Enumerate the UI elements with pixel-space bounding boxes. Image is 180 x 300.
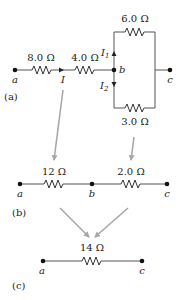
resistor-4ohm bbox=[75, 66, 94, 74]
node-a bbox=[41, 259, 46, 264]
label-4ohm: 4.0 Ω bbox=[71, 52, 98, 63]
label-12ohm: 12 Ω bbox=[42, 166, 66, 177]
label-node-b: b bbox=[89, 188, 95, 199]
label-node-b: b bbox=[119, 64, 125, 75]
label-node-a: a bbox=[17, 188, 23, 199]
label-current-I1: I1 bbox=[100, 47, 109, 60]
label-node-c: c bbox=[167, 74, 173, 85]
label-node-c: c bbox=[164, 188, 170, 199]
resistor-12ohm bbox=[44, 180, 63, 188]
resistor-8ohm bbox=[32, 66, 51, 74]
current-arrow-I2 bbox=[112, 82, 117, 87]
node-c bbox=[165, 182, 170, 187]
node-a bbox=[18, 182, 23, 187]
label-3ohm: 3.0 Ω bbox=[121, 116, 148, 127]
panel-c: 14 Ω a c (c) bbox=[12, 242, 145, 291]
resistor-14ohm bbox=[82, 257, 101, 265]
resistor-6ohm bbox=[125, 28, 144, 36]
node-c bbox=[140, 259, 145, 264]
resistor-3ohm bbox=[125, 104, 144, 112]
node-b bbox=[90, 182, 95, 187]
circuit-diagram: 8.0 Ω 4.0 Ω 6.0 Ω 3.0 Ω a b c I I1 I2 (a… bbox=[0, 0, 180, 300]
current-arrow-I bbox=[59, 68, 64, 73]
label-2ohm: 2.0 Ω bbox=[117, 166, 144, 177]
label-8ohm: 8.0 Ω bbox=[27, 52, 54, 63]
panel-label-a: (a) bbox=[4, 91, 18, 102]
node-a bbox=[13, 68, 18, 73]
panel-label-b: (b) bbox=[12, 207, 26, 218]
reduction-arrow-series bbox=[54, 90, 63, 160]
node-c bbox=[168, 68, 173, 73]
label-6ohm: 6.0 Ω bbox=[121, 13, 148, 24]
panel-label-c: (c) bbox=[12, 280, 26, 291]
panel-a: 8.0 Ω 4.0 Ω 6.0 Ω 3.0 Ω a b c I I1 I2 (a… bbox=[4, 13, 173, 127]
label-current-I2: I2 bbox=[99, 80, 109, 93]
resistor-2ohm bbox=[121, 180, 140, 188]
reduction-arrow-left bbox=[60, 208, 89, 237]
reduction-arrow-parallel bbox=[131, 137, 134, 160]
current-arrow-I1 bbox=[112, 51, 117, 56]
label-14ohm: 14 Ω bbox=[80, 242, 104, 253]
panel-b: 12 Ω 2.0 Ω a b c (b) bbox=[12, 166, 170, 218]
label-node-a: a bbox=[12, 74, 18, 85]
label-node-a: a bbox=[39, 265, 45, 276]
label-current-I: I bbox=[60, 74, 66, 85]
reduction-arrow-right bbox=[95, 208, 128, 237]
label-node-c: c bbox=[139, 265, 145, 276]
node-b bbox=[112, 68, 117, 73]
